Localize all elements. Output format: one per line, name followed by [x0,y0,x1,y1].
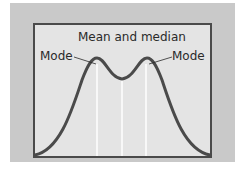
right-mode-label: Mode [172,49,205,63]
diagram-title: Mean and median [78,30,186,44]
left-mode-label: Mode [40,49,73,63]
bimodal-curve-diagram [0,0,245,186]
